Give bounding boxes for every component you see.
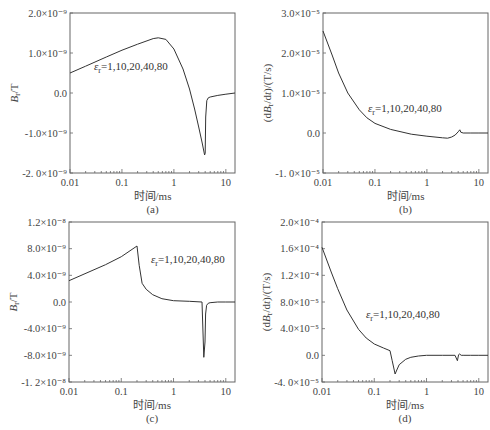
y-tick-label: -8.0×10⁻⁹ (24, 350, 67, 361)
y-tick-label: 8.0×10⁻⁹ (27, 243, 66, 254)
y-tick-label: 0.0 (307, 128, 320, 139)
x-tick-label: 10 (474, 177, 485, 188)
x-tick-label: 0.1 (368, 386, 381, 397)
y-tick-label: 1.2×10⁻⁸ (27, 217, 66, 228)
x-tick-label: 1 (424, 177, 429, 188)
chart-panel-a: 0.010.11102.0×10⁻⁹1.0×10⁻⁹0.0-1.0×10⁻⁹-2… (8, 8, 235, 217)
panel-label: (c) (146, 412, 159, 425)
x-tick-label: 0.1 (368, 177, 381, 188)
y-tick-label: 2.0×10⁻⁹ (28, 8, 67, 19)
y-axis-title: Br/T (8, 83, 22, 102)
y-axis-title: (dBr/dt)/(T/s) (261, 64, 275, 123)
x-tick-label: 10 (221, 177, 232, 188)
x-tick-label: 1 (424, 386, 429, 397)
y-tick-label: 0.0 (53, 297, 66, 308)
y-tick-label: 0.0 (54, 88, 67, 99)
y-tick-label: -1. 2×10⁻⁸ (21, 377, 66, 388)
x-tick-label: 0.1 (115, 386, 128, 397)
y-tick-label: 2.0×10⁻⁴ (280, 217, 319, 228)
chart-panel-b: 0.010.11103.0×10⁻⁵2.0×10⁻⁵1.0×10⁻⁵0.0-1.… (261, 8, 488, 217)
y-tick-label: 1.0×10⁻⁹ (28, 48, 67, 59)
x-tick-label: 0.01 (61, 177, 79, 188)
y-tick-label: 1.6×10⁻⁴ (280, 243, 319, 254)
y-tick-label: 8.0×10⁻⁵ (280, 297, 319, 308)
y-tick-label: 4.0×10⁻⁹ (27, 270, 66, 281)
y-tick-label: 4.0×10⁻⁵ (280, 323, 319, 334)
y-tick-label: 3.0×10⁻⁵ (281, 8, 320, 19)
panel-label: (a) (146, 203, 159, 216)
x-axis-title: 时间/ms (386, 399, 424, 411)
y-tick-label: -1. 0×10⁻⁵ (275, 168, 320, 179)
permittivity-annotation: εr=1,10,20,40,80 (151, 253, 225, 268)
panel-label: (b) (399, 203, 412, 216)
chart-panel-d: 0.010.11102.0×10⁻⁴1.6×10⁻⁴1.2×10⁻⁴8.0×10… (260, 217, 488, 426)
y-tick-label: 1.0×10⁻⁵ (281, 88, 320, 99)
x-axis-title: 时间/ms (134, 190, 172, 202)
permittivity-annotation: εr=1,10,20,40,80 (366, 308, 440, 323)
plot-frame (69, 222, 235, 382)
data-series-line (323, 31, 488, 138)
y-tick-label: 2.0×10⁻⁵ (281, 48, 320, 59)
x-axis-title: 时间/ms (133, 399, 171, 411)
x-tick-label: 0.1 (115, 177, 128, 188)
figure: 0.010.11102.0×10⁻⁹1.0×10⁻⁹0.0-1.0×10⁻⁹-2… (0, 0, 490, 430)
y-tick-label: -4. 0×10⁻⁵ (274, 377, 319, 388)
y-tick-label: -1.0×10⁻⁹ (25, 128, 68, 139)
panel-label: (d) (399, 412, 412, 425)
permittivity-annotation: εr=1,10,20,40,80 (94, 60, 168, 75)
y-tick-label: 0.0 (306, 350, 319, 361)
x-tick-label: 10 (474, 386, 485, 397)
x-tick-label: 0.01 (60, 386, 78, 397)
x-axis-title: 时间/ms (387, 190, 425, 202)
plot-frame (322, 222, 488, 382)
x-tick-label: 10 (221, 386, 232, 397)
y-axis-title: (dBr/dt)/(T/s) (260, 273, 274, 332)
x-tick-label: 1 (171, 386, 176, 397)
plot-frame (70, 13, 235, 173)
y-tick-label: -2. 0×10⁻⁹ (22, 168, 67, 179)
x-tick-label: 1 (171, 177, 176, 188)
x-tick-label: 0.01 (313, 386, 331, 397)
x-tick-label: 0.01 (314, 177, 332, 188)
data-series-line (70, 38, 235, 155)
chart-panel-c: 0.010.11101.2×10⁻⁸8.0×10⁻⁹4.0×10⁻⁹0.0-4.… (7, 217, 235, 426)
y-tick-label: 1.2×10⁻⁴ (280, 270, 319, 281)
permittivity-annotation: εr=1,10,20,40,80 (368, 102, 442, 117)
y-tick-label: -4.0×10⁻⁹ (24, 323, 67, 334)
y-axis-title: Br/T (7, 292, 21, 311)
